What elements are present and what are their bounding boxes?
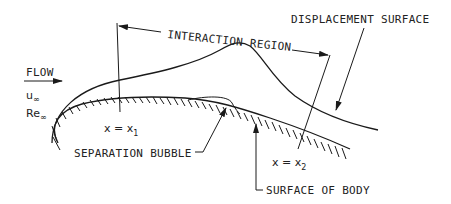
interaction-region-diagram: FLOW u∞ Re∞ INTERACTION REGION DISPLACEM…	[0, 0, 451, 204]
surface-of-body-label: SURFACE OF BODY	[266, 184, 370, 197]
interaction-region-label: INTERACTION REGION	[167, 28, 292, 54]
interaction-right-arrow	[292, 50, 328, 55]
flow-label: FLOW	[26, 66, 54, 79]
surface-of-body-pointer	[256, 124, 263, 190]
re-inf-label: Re∞	[26, 107, 47, 122]
separation-bubble-label: SEPARATION BUBBLE	[74, 147, 192, 160]
separation-bubble-pointer	[195, 108, 226, 152]
x2-label: x = x2	[272, 156, 306, 172]
x1-label: x = x1	[104, 122, 138, 138]
u-inf-label: u∞	[26, 89, 40, 104]
displacement-surface-label: DISPLACEMENT SURFACE	[291, 13, 429, 26]
interaction-left-arrow	[119, 26, 161, 32]
displacement-pointer-arrow	[336, 28, 364, 110]
